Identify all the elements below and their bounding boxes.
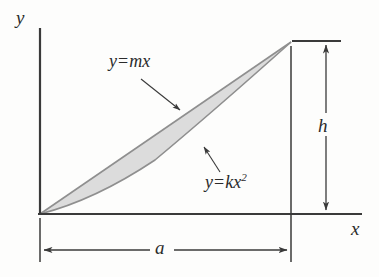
equation-lhs-kx2: y bbox=[205, 172, 213, 192]
diagram-svg bbox=[0, 0, 379, 277]
y-axis-label: y bbox=[16, 8, 24, 27]
height-dimension-label: h bbox=[318, 116, 328, 135]
leader-line-kx2 bbox=[204, 147, 220, 172]
equation-label-parabola: y=kx2 bbox=[205, 173, 247, 191]
leader-line-mx bbox=[141, 79, 180, 110]
equation-exponent-kx2: 2 bbox=[241, 171, 247, 183]
equation-equals-mx: = bbox=[117, 51, 129, 71]
equation-lhs-mx: y bbox=[109, 51, 117, 71]
width-dimension-label: a bbox=[155, 238, 165, 257]
figure-canvas: y x y=mx y=kx2 h a bbox=[0, 0, 379, 277]
straight-line-curve bbox=[40, 42, 291, 214]
equation-label-straight-line: y=mx bbox=[109, 52, 150, 70]
equation-rhs-kx2: kx bbox=[225, 172, 241, 192]
x-axis-label: x bbox=[351, 219, 359, 238]
equation-rhs-mx: mx bbox=[129, 51, 150, 71]
equation-equals-kx2: = bbox=[213, 172, 225, 192]
